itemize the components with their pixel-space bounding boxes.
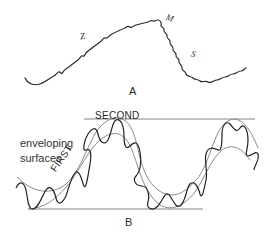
second-label: SECOND	[95, 111, 140, 121]
panel-b-letter: B	[125, 217, 132, 228]
panel-a-letter: A	[129, 86, 136, 97]
fold-diagram: Z M S A SECOND enveloping surfaces FIRST…	[0, 0, 272, 237]
panel-a-fold-profile	[25, 20, 246, 85]
